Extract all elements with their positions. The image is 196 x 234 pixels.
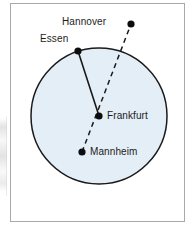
point-marker-hannover bbox=[127, 20, 134, 27]
point-label-frankfurt: Frankfurt bbox=[107, 110, 148, 121]
point-marker-mannheim bbox=[78, 148, 85, 155]
point-label-mannheim: Mannheim bbox=[90, 146, 138, 157]
circle-diagram bbox=[0, 0, 196, 234]
point-label-essen: Essen bbox=[40, 33, 68, 44]
point-marker-frankfurt bbox=[95, 112, 102, 119]
point-label-hannover: Hannover bbox=[62, 16, 106, 27]
figure-root: Hannover Essen Frankfurt Mannheim bbox=[0, 0, 196, 234]
point-marker-essen bbox=[74, 47, 81, 54]
